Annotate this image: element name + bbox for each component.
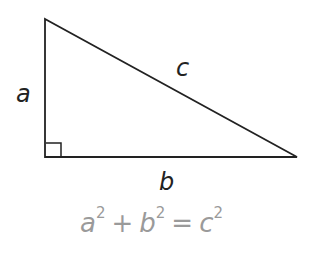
pythagorean-equation: a2+b2=c2 xyxy=(80,210,223,236)
side-label-c: c xyxy=(176,56,189,80)
plus-sign: + xyxy=(111,208,133,238)
right-triangle xyxy=(45,19,297,157)
exp-c: 2 xyxy=(213,204,223,222)
side-label-b: b xyxy=(159,170,174,194)
term-a: a xyxy=(80,208,96,238)
exp-a: 2 xyxy=(96,204,106,222)
exp-b: 2 xyxy=(156,204,166,222)
side-label-a: a xyxy=(16,82,31,106)
term-b: b xyxy=(139,208,156,238)
right-angle-marker xyxy=(46,143,61,157)
pythagoras-diagram: a b c a2+b2=c2 xyxy=(0,0,314,253)
equals-sign: = xyxy=(171,208,193,238)
term-c: c xyxy=(199,208,213,238)
